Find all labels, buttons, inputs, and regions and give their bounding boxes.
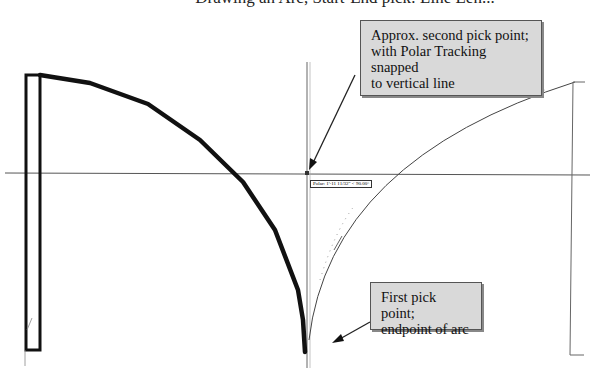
tall-rectangle xyxy=(26,75,40,350)
polar-tracking-tooltip: Polar: 1'-11 11/32" < 90.00° xyxy=(310,180,372,188)
arc-dotted-trace xyxy=(320,205,355,280)
callout-bottom-line-1: First pick point; xyxy=(381,289,471,321)
callout-top-line-1: Approx. second pick point; xyxy=(371,27,531,43)
top-leader-arrowhead xyxy=(309,158,317,170)
right-bracket-vertical xyxy=(570,82,573,355)
top-leader-line xyxy=(312,75,355,165)
callout-second-pick-point: Approx. second pick point; with Polar Tr… xyxy=(360,20,542,96)
bottom-leader-arrowhead xyxy=(332,334,344,343)
horizontal-construction-line xyxy=(5,173,590,175)
snap-marker xyxy=(305,171,309,175)
bottom-leader-line xyxy=(338,322,370,340)
rect-inner-mark xyxy=(27,318,32,330)
thick-curve-polyline xyxy=(40,75,305,352)
callout-bottom-line-2: endpoint of arc xyxy=(381,321,471,337)
callout-first-pick-point: First pick point; endpoint of arc xyxy=(370,282,482,330)
callout-top-line-3: to vertical line xyxy=(371,75,531,91)
callout-top-line-2: with Polar Tracking snapped xyxy=(371,43,531,75)
